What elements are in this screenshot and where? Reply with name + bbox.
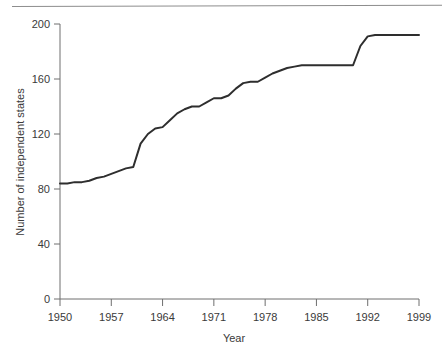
chart-figure: 04080120160200 1950195719641971197819851… xyxy=(0,0,448,358)
y-axis-tick-label: 120 xyxy=(32,128,50,140)
x-axis-tick-label: 1950 xyxy=(48,311,72,323)
x-axis-tick-label: 1985 xyxy=(304,311,328,323)
x-axis-ticks xyxy=(60,299,419,306)
y-axis-tick-label: 160 xyxy=(32,73,50,85)
x-axis-title: Year xyxy=(223,332,246,344)
series-line-independent-states xyxy=(60,35,419,184)
y-axis-tick-label: 0 xyxy=(44,293,50,305)
y-axis-title: Number of independent states xyxy=(14,88,26,236)
x-axis-tick-label: 1964 xyxy=(150,311,174,323)
line-chart-plot: 04080120160200 1950195719641971197819851… xyxy=(0,0,448,358)
y-axis-tick-label: 200 xyxy=(32,18,50,30)
chart-axes: 04080120160200 1950195719641971197819851… xyxy=(32,18,432,323)
y-axis-tick-label: 40 xyxy=(38,238,50,250)
y-axis-ticks xyxy=(54,24,60,299)
x-axis-tick-label: 1999 xyxy=(407,311,431,323)
x-axis-tick-label: 1992 xyxy=(355,311,379,323)
x-axis-tick-label: 1978 xyxy=(253,311,277,323)
x-axis-tick-label: 1971 xyxy=(202,311,226,323)
y-axis-tick-label: 80 xyxy=(38,183,50,195)
x-axis-tick-label: 1957 xyxy=(99,311,123,323)
x-axis-tick-labels: 19501957196419711978198519921999 xyxy=(48,311,431,323)
y-axis-tick-labels: 04080120160200 xyxy=(32,18,50,305)
